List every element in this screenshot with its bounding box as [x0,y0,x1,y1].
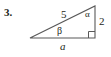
angle-beta-label: β [57,26,62,36]
angle-alpha-label: α [85,10,90,19]
vertical-side-length-label: 2 [99,16,105,27]
right-triangle-graphic [0,0,111,57]
right-angle-marker-icon [89,32,96,39]
hypotenuse-length-label: 5 [61,9,67,20]
figure-container: 3. 5 2 a α β [0,0,111,57]
base-length-label: a [60,41,66,52]
